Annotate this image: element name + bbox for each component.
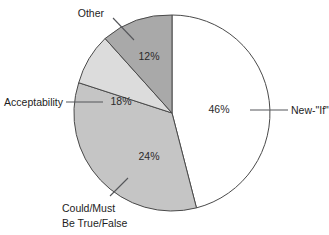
pie-value-label-other: 12% <box>138 50 159 62</box>
pie-value-label-acceptability: 18% <box>110 95 131 107</box>
pie-category-label-other: Other <box>78 7 105 19</box>
pie-category-label-could-must-line2: Be True/False <box>62 217 128 229</box>
pie-category-label-could-must-line1: Could/Must <box>62 202 115 214</box>
pie-value-label-could-must: 24% <box>138 150 159 162</box>
pie-value-label-new-if: 46% <box>208 103 229 115</box>
pie-chart-figure: 46% 24% 18% 12% New-"If" Acceptability O… <box>0 0 329 235</box>
pie-chart-canvas: 46% 24% 18% 12% New-"If" Acceptability O… <box>0 0 329 235</box>
pie-category-label-acceptability: Acceptability <box>4 96 64 108</box>
pie-category-label-new-if: New-"If" <box>291 104 329 116</box>
